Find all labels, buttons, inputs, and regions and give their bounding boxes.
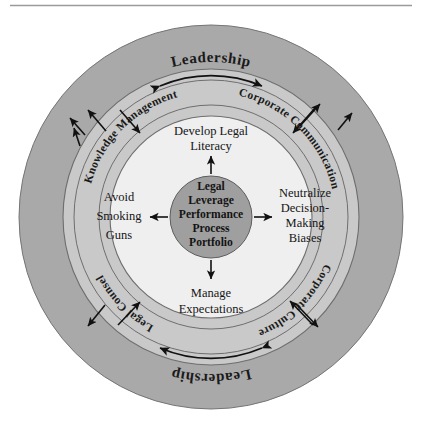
node-left-line-3: Guns — [106, 228, 133, 242]
hub-line-1: Legal — [197, 180, 225, 193]
node-left-line-2: Smoking — [96, 209, 142, 223]
figure-canvas: Leadership Leadership Knowledge Manageme… — [0, 0, 423, 435]
hub-line-5: Portfolio — [189, 236, 233, 249]
concentric-ring-diagram: Leadership Leadership Knowledge Manageme… — [0, 0, 423, 435]
hub-line-3: Performance — [179, 208, 243, 221]
node-bottom-line-1: Manage — [191, 286, 232, 300]
node-left-line-1: Avoid — [104, 190, 135, 204]
node-bottom-line-2: Expectations — [179, 302, 244, 316]
hub-line-4: Process — [192, 222, 230, 235]
node-right-line-4: Biases — [289, 231, 322, 245]
node-right-line-2: Decision- — [281, 201, 330, 215]
hub-line-2: Leverage — [188, 194, 234, 207]
node-right-line-3: Making — [286, 216, 326, 230]
node-top-line-1: Develop Legal — [174, 124, 248, 138]
node-right-line-1: Neutralize — [279, 186, 332, 200]
node-top-line-2: Literacy — [190, 139, 232, 153]
